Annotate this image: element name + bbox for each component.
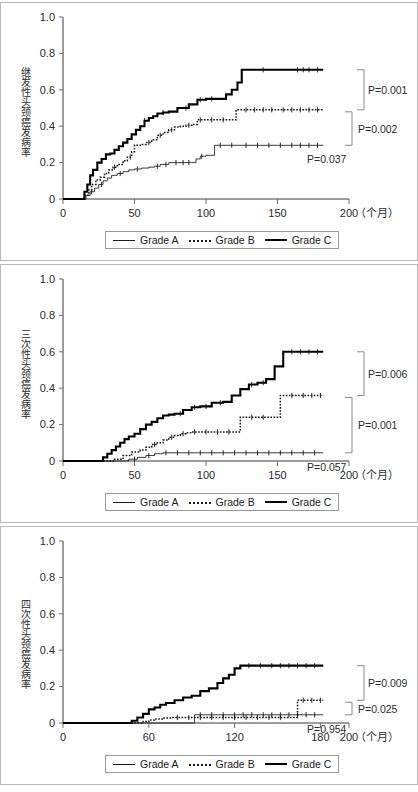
panel-2-plot: 00.20.40.60.81.0050100150200（个月）P=0.006P… — [1, 265, 417, 522]
y-tick-label: 0.4 — [40, 644, 55, 656]
legend-label-grade-c: Grade C — [292, 496, 332, 508]
legend-swatch-grade-a — [113, 761, 135, 768]
legend-label-grade-a: Grade A — [140, 234, 179, 246]
legend-label-grade-a: Grade A — [140, 496, 179, 508]
legend-label-grade-b: Grade B — [216, 496, 255, 508]
curve-grade-c — [63, 352, 323, 461]
y-tick-label: 1.0 — [40, 535, 55, 547]
legend-swatch-grade-a — [113, 499, 135, 506]
y-tick-label: 0 — [49, 193, 55, 205]
panel-2-legend: Grade A Grade B Grade C — [105, 493, 339, 511]
y-tick-label: 0.6 — [40, 84, 55, 96]
x-tick-label: 100 — [197, 469, 215, 481]
panel-3-legend: Grade A Grade B Grade C — [105, 755, 339, 773]
panel-3-plot: 00.20.40.60.81.0060120180200（个月）P=0.009P… — [1, 527, 417, 784]
legend-swatch-grade-a — [113, 237, 135, 244]
p-value-label: P=0.009 — [368, 677, 408, 689]
panel-3: 四次性头颈癌发病率 00.20.40.60.81.0060120180200（个… — [0, 526, 418, 785]
p-value-label: P=0.954 — [307, 723, 347, 735]
p-value-label: P=0.025 — [358, 703, 398, 715]
legend-item-grade-a: Grade A — [113, 234, 179, 246]
curve-grade-b — [63, 700, 323, 723]
y-tick-label: 0.8 — [40, 309, 55, 321]
legend-label-grade-a: Grade A — [140, 758, 179, 770]
legend-item-grade-b: Grade B — [189, 496, 255, 508]
x-tick-label: 120 — [225, 731, 243, 743]
curve-grade-c — [63, 70, 323, 199]
legend-label-grade-b: Grade B — [216, 234, 255, 246]
legend-item-grade-b: Grade B — [189, 758, 255, 770]
legend-item-grade-a: Grade A — [113, 758, 179, 770]
legend-item-grade-a: Grade A — [113, 496, 179, 508]
y-tick-label: 0 — [49, 717, 55, 729]
legend-swatch-grade-c — [265, 499, 287, 506]
legend-item-grade-c: Grade C — [265, 234, 332, 246]
y-tick-label: 0.4 — [40, 382, 55, 394]
x-tick-label: 50 — [128, 207, 140, 219]
x-tick-label: 0 — [60, 731, 66, 743]
panel-1-plot: 00.20.40.60.81.0050100150200（个月）P=0.001P… — [1, 3, 417, 260]
x-tick-label: 100 — [197, 207, 215, 219]
legend-label-grade-c: Grade C — [292, 234, 332, 246]
legend-swatch-grade-b — [189, 499, 211, 506]
panel-3-y-axis-label: 四次性头颈癌发病率 — [19, 599, 30, 689]
y-tick-label: 1.0 — [40, 11, 55, 23]
panel-2: 三次性头颈癌发病率 00.20.40.60.81.0050100150200（个… — [0, 264, 418, 523]
panel-1-y-axis-label: 继发性头颈癌发病率 — [19, 67, 30, 157]
y-tick-label: 0.8 — [40, 571, 55, 583]
legend-swatch-grade-b — [189, 237, 211, 244]
legend-swatch-grade-b — [189, 761, 211, 768]
y-tick-label: 0.4 — [40, 120, 55, 132]
x-tick-label: 150 — [268, 207, 286, 219]
x-tick-label: 0 — [60, 207, 66, 219]
p-value-label: P=0.057 — [307, 461, 347, 473]
panel-1: 继发性头颈癌发病率 00.20.40.60.81.0050100150200（个… — [0, 2, 418, 261]
legend-label-grade-c: Grade C — [292, 758, 332, 770]
p-value-label: P=0.001 — [368, 84, 408, 96]
y-tick-label: 1.0 — [40, 273, 55, 285]
x-tick-label: 50 — [128, 469, 140, 481]
curve-grade-a — [63, 715, 323, 723]
x-tick-label: 0 — [60, 469, 66, 481]
y-tick-label: 0.6 — [40, 608, 55, 620]
legend-item-grade-b: Grade B — [189, 234, 255, 246]
legend-swatch-grade-c — [265, 761, 287, 768]
y-tick-label: 0.2 — [40, 680, 55, 692]
p-value-label: P=0.001 — [358, 419, 398, 431]
panel-1-legend: Grade A Grade B Grade C — [105, 231, 339, 249]
x-tick-label: 150 — [268, 469, 286, 481]
legend-swatch-grade-c — [265, 237, 287, 244]
x-axis-unit-label: （个月） — [355, 469, 399, 481]
p-value-label: P=0.037 — [307, 153, 347, 165]
legend-item-grade-c: Grade C — [265, 758, 332, 770]
x-axis-unit-label: （个月） — [355, 207, 399, 219]
panel-2-y-axis-label: 三次性头颈癌发病率 — [19, 329, 30, 419]
x-axis-unit-label: （个月） — [355, 731, 399, 743]
y-tick-label: 0.8 — [40, 47, 55, 59]
legend-item-grade-c: Grade C — [265, 496, 332, 508]
y-tick-label: 0 — [49, 455, 55, 467]
y-tick-label: 0.2 — [40, 418, 55, 430]
curve-grade-a — [63, 145, 323, 199]
curve-grade-b — [63, 395, 323, 461]
legend-label-grade-b: Grade B — [216, 758, 255, 770]
p-value-label: P=0.006 — [368, 368, 408, 380]
y-tick-label: 0.2 — [40, 156, 55, 168]
p-value-label: P=0.002 — [358, 123, 398, 135]
figure-page: 继发性头颈癌发病率 00.20.40.60.81.0050100150200（个… — [0, 0, 418, 792]
x-tick-label: 60 — [143, 731, 155, 743]
y-tick-label: 0.6 — [40, 346, 55, 358]
